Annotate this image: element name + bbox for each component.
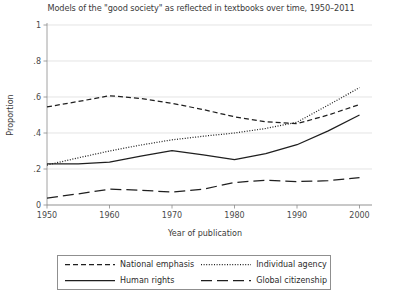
legend-label-individual-agency: Individual agency (256, 260, 327, 269)
y-tick-label: 0 (36, 201, 41, 210)
legend-label-human-rights: Human rights (120, 276, 174, 285)
series-line-individual-agency (47, 88, 360, 165)
legend-key-solid-icon (64, 276, 116, 285)
legend-key-dotted-icon (200, 260, 252, 269)
legend-item-global-citizenship: Global citizenship (194, 276, 330, 285)
legend-item-national-emphasis: National emphasis (58, 260, 194, 269)
y-tick-label: .4 (33, 129, 41, 138)
gridlines-group (47, 25, 372, 205)
legend-key-dashed-icon (64, 260, 116, 269)
series-line-global-citizenship (47, 178, 360, 199)
x-tick-label: 1970 (162, 211, 182, 220)
x-tick-label: 1960 (99, 211, 119, 220)
x-tick-label: 2000 (349, 211, 369, 220)
x-tick-label: 1990 (287, 211, 307, 220)
x-axis-title: Year of publication (167, 229, 242, 238)
legend-label-global-citizenship: Global citizenship (256, 276, 327, 285)
legend-key-long-dashed-icon (200, 276, 252, 285)
chart-figure: Models of the "good society" as reflecte… (0, 0, 402, 297)
legend-label-national-emphasis: National emphasis (120, 260, 194, 269)
x-tick-labels-group: 195019601970198019902000 (37, 211, 370, 220)
y-tick-label: .6 (33, 93, 41, 102)
y-axis-title: Proportion (6, 94, 15, 135)
legend-item-individual-agency: Individual agency (194, 260, 330, 269)
x-tick-label: 1980 (224, 211, 244, 220)
y-tick-label: 1 (36, 21, 41, 30)
y-tick-label: .8 (33, 57, 41, 66)
x-tick-label: 1950 (37, 211, 57, 220)
series-group (47, 88, 360, 199)
legend-item-human-rights: Human rights (58, 276, 194, 285)
y-tick-label: .2 (33, 165, 41, 174)
chart-legend: National emphasis Individual agency Huma… (57, 255, 331, 290)
line-chart-plot: 0.2.4.6.81 195019601970198019902000 Prop… (0, 0, 402, 250)
series-line-national-emphasis (47, 96, 360, 124)
y-tick-labels-group: 0.2.4.6.81 (33, 21, 41, 210)
series-line-human-rights (47, 115, 360, 164)
